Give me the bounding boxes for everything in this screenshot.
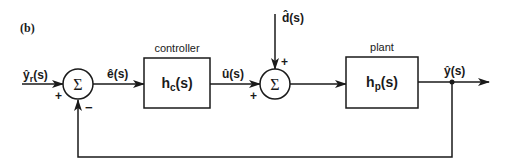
sigma-symbol-1: Σ [73, 76, 82, 93]
panel-label: (b) [20, 21, 35, 35]
svg-text:ŷr(s): ŷr(s) [23, 68, 48, 84]
error-signal-label: ê(s) [107, 67, 128, 81]
controller-transfer-function: hc(s) [161, 75, 192, 93]
disturbance-label: d̂(s) [282, 10, 304, 25]
sum1-minus-sign: − [85, 100, 93, 115]
control-signal-label: û(s) [222, 67, 244, 81]
controller-title: controller [154, 42, 200, 54]
block-diagram: (b) ŷr(s) Σ + − ê(s) controller hc(s) û(… [0, 0, 510, 168]
sum2-plus-top: + [281, 55, 288, 69]
plant-transfer-function: hp(s) [366, 74, 398, 92]
sum1-plus-sign: + [55, 89, 62, 103]
diagram-svg: (b) ŷr(s) Σ + − ê(s) controller hc(s) û(… [0, 0, 510, 168]
plant-title: plant [370, 41, 394, 53]
sum2-plus-left: + [250, 89, 257, 103]
reference-signal-label: ŷr(s) [23, 68, 48, 84]
sigma-symbol-2: Σ [270, 76, 279, 93]
output-signal-label: ŷ(s) [444, 64, 465, 78]
